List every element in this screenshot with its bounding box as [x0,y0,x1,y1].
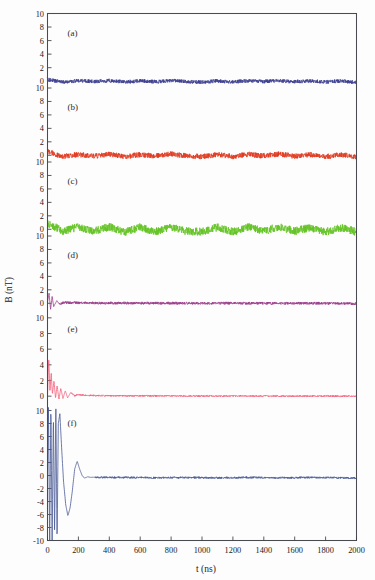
y-tick-label: 4 [40,198,45,207]
y-tick-label: 10 [36,84,44,93]
panel-label: (b) [68,102,79,112]
y-tick-label: 4 [40,272,45,281]
panel-c: 0246810(c) [36,158,357,236]
x-tick-label: 800 [165,546,177,555]
x-tick-label: 2000 [348,546,365,555]
trace-line [48,407,357,540]
x-axis-title: t (ns) [196,564,216,575]
y-tick-label: 4 [40,50,45,59]
trace-line [48,221,357,236]
y-tick-label: 2 [40,212,44,221]
y-tick-label: 4 [40,361,45,370]
panel-label: (f) [68,418,77,428]
panels-group: 0246810(a)0246810(b)0246810(c)0246810(d)… [33,10,357,546]
y-tick-label: -6 [37,511,44,520]
x-tick-label: 0 [45,546,49,555]
x-tick-label: 200 [72,546,84,555]
y-tick-label: -10 [33,537,44,546]
y-tick-label: 0 [40,299,44,308]
y-tick-label: 6 [40,433,44,442]
y-tick-label: -8 [37,524,44,533]
y-tick-label: 6 [40,259,44,268]
y-tick-label: 6 [40,345,44,354]
chart-frame [48,14,357,541]
x-tick-label: 1600 [286,546,303,555]
x-tick-label: 400 [103,546,115,555]
trace-line [48,360,357,399]
y-tick-label: 4 [40,124,45,133]
y-tick-label: 2 [40,459,44,468]
y-tick-label: 6 [40,37,44,46]
trace-line [48,293,357,309]
panel-label: (a) [68,28,78,38]
y-tick-label: 10 [36,232,44,241]
panel-label: (c) [68,176,78,186]
panel-e: 0246810(e) [36,314,357,401]
y-tick-label: 2 [40,286,44,295]
y-tick-label: 2 [40,64,44,73]
y-tick-label: 0 [40,472,44,481]
y-tick-label: 8 [40,330,44,339]
x-tick-label: 1000 [194,546,211,555]
panel-a: 0246810(a) [36,10,357,87]
y-tick-label: 8 [40,97,44,106]
y-tick-label: 4 [40,446,45,455]
trace-line [48,149,357,160]
multi-panel-chart: 0246810(a)0246810(b)0246810(c)0246810(d)… [0,0,375,580]
y-tick-label: 10 [36,10,44,19]
x-tick-label: 1800 [317,546,334,555]
y-tick-label: 2 [40,377,44,386]
y-tick-label: 8 [40,245,44,254]
x-tick-label: 600 [134,546,146,555]
y-tick-label: 10 [36,314,44,323]
y-tick-label: -2 [37,485,44,494]
x-axis: 0200400600800100012001400160018002000 [45,537,364,555]
x-tick-label: 1200 [225,546,242,555]
panel-f: -10-8-6-4-20246810(f) [33,407,357,546]
y-tick-label: -4 [37,498,45,507]
y-tick-label: 6 [40,185,44,194]
figure-root: 0246810(a)0246810(b)0246810(c)0246810(d)… [0,0,375,580]
y-tick-label: 0 [40,392,44,401]
y-tick-label: 8 [40,420,44,429]
trace-line [48,78,357,84]
y-tick-label: 10 [36,158,44,167]
panel-b: 0246810(b) [36,84,357,160]
panel-d: 0246810(d) [36,232,357,309]
panel-label: (e) [68,324,78,334]
y-axis-title: B (nT) [4,277,15,303]
y-tick-label: 6 [40,111,44,120]
y-tick-label: 8 [40,23,44,32]
x-tick-label: 1400 [256,546,273,555]
y-tick-label: 10 [36,407,44,416]
y-tick-label: 8 [40,171,44,180]
y-tick-label: 2 [40,138,44,147]
panel-label: (d) [68,250,79,260]
